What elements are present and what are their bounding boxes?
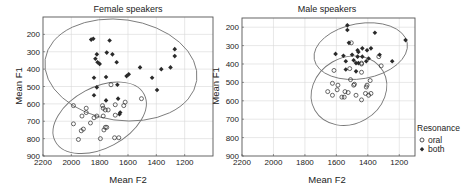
point-oral [379,64,383,68]
x-axis-label: Mean F2 [308,174,346,185]
point-both [159,67,164,72]
y-tick-label: 400 [27,65,41,74]
point-oral [352,82,356,86]
point-both [390,59,395,64]
point-oral [98,137,102,141]
point-oral [369,91,373,95]
point-oral [326,90,330,94]
point-oral [109,83,113,87]
point-both [355,54,360,59]
point-oral [117,136,121,140]
point-both [172,47,177,52]
point-both [107,38,112,43]
point-oral [84,111,88,115]
point-both [104,50,109,55]
x-tick-label: 1800 [296,158,314,167]
point-oral [113,136,117,140]
point-oral [95,114,99,118]
chart-title: Male speakers [298,4,357,14]
y-tick-label: 600 [27,100,41,109]
y-tick-label: 500 [27,83,41,92]
point-oral [332,68,336,72]
point-oral [335,88,339,92]
point-both [155,88,160,93]
plot-frame [242,18,415,156]
female-speakers-panel: Female speakers Mean F2 Mean F1 22002000… [13,4,213,185]
point-oral [368,79,372,83]
point-oral [360,70,364,74]
point-both [344,59,349,64]
point-both [354,69,359,74]
point-oral [101,114,105,118]
point-both [333,52,338,57]
point-both [150,76,155,81]
x-tick-label: 1800 [91,158,109,167]
point-oral [71,122,75,126]
x-axis-label: Mean F2 [109,174,147,185]
point-both [365,48,370,53]
y-tick-label: 700 [27,117,41,126]
legend-oral-marker [420,138,424,142]
y-axis-label: Mean F1 [210,67,221,105]
point-both [172,54,177,59]
y-tick-label: 500 [226,78,240,87]
point-both [104,75,109,80]
point-both [344,67,349,72]
point-both [92,76,97,81]
point-oral [360,98,364,102]
point-oral [330,81,334,85]
point-oral [342,95,346,99]
point-oral [348,67,352,71]
point-both [95,52,100,57]
x-tick-label: 1600 [119,158,137,167]
point-oral [336,83,340,87]
x-tick-label: 1200 [176,158,194,167]
point-oral [346,91,350,95]
point-oral [79,129,83,133]
point-oral [364,85,368,89]
point-oral [122,104,126,108]
y-tick-label: 700 [226,115,240,124]
point-both [114,60,119,65]
y-tick-label: 800 [27,135,41,144]
point-oral [84,106,88,110]
ellipse-both [309,16,412,87]
y-tick-label: 300 [226,42,240,51]
x-tick-label: 2000 [62,158,80,167]
x-tick-label: 1600 [327,158,345,167]
legend-title: Resonance [417,123,460,133]
y-tick-label: 600 [226,97,240,106]
point-both [110,52,115,57]
point-both [104,98,109,103]
y-axis-label: Mean F1 [13,67,24,105]
y-tick-label: 900 [226,152,240,161]
point-both [116,96,121,101]
scatter-chart-figure: Female speakers Mean F2 Mean F1 22002000… [0,0,471,189]
male-speakers-panel: Male speakers Mean F2 Mean F1 2200200018… [210,4,415,185]
chart-title: Female speakers [93,4,163,14]
point-oral [113,103,117,107]
y-tick-label: 300 [27,48,41,57]
point-both [345,28,350,33]
y-tick-label: 200 [226,23,240,32]
point-oral [76,137,80,141]
y-tick-label: 200 [27,30,41,39]
x-tick-label: 1400 [147,158,165,167]
point-oral [80,114,84,118]
point-both [92,93,97,98]
point-both [360,46,365,51]
point-oral [71,104,75,108]
y-tick-label: 900 [27,152,41,161]
point-oral [349,78,353,82]
point-oral [330,93,334,97]
point-oral [113,113,117,117]
point-both [373,30,378,35]
y-tick-label: 800 [226,134,240,143]
legend: Resonance oral both [417,123,460,154]
point-both [93,56,98,61]
x-tick-label: 1200 [390,158,408,167]
point-both [369,46,374,51]
x-tick-label: 1400 [359,158,377,167]
point-oral [354,93,358,97]
x-tick-label: 2000 [265,158,283,167]
